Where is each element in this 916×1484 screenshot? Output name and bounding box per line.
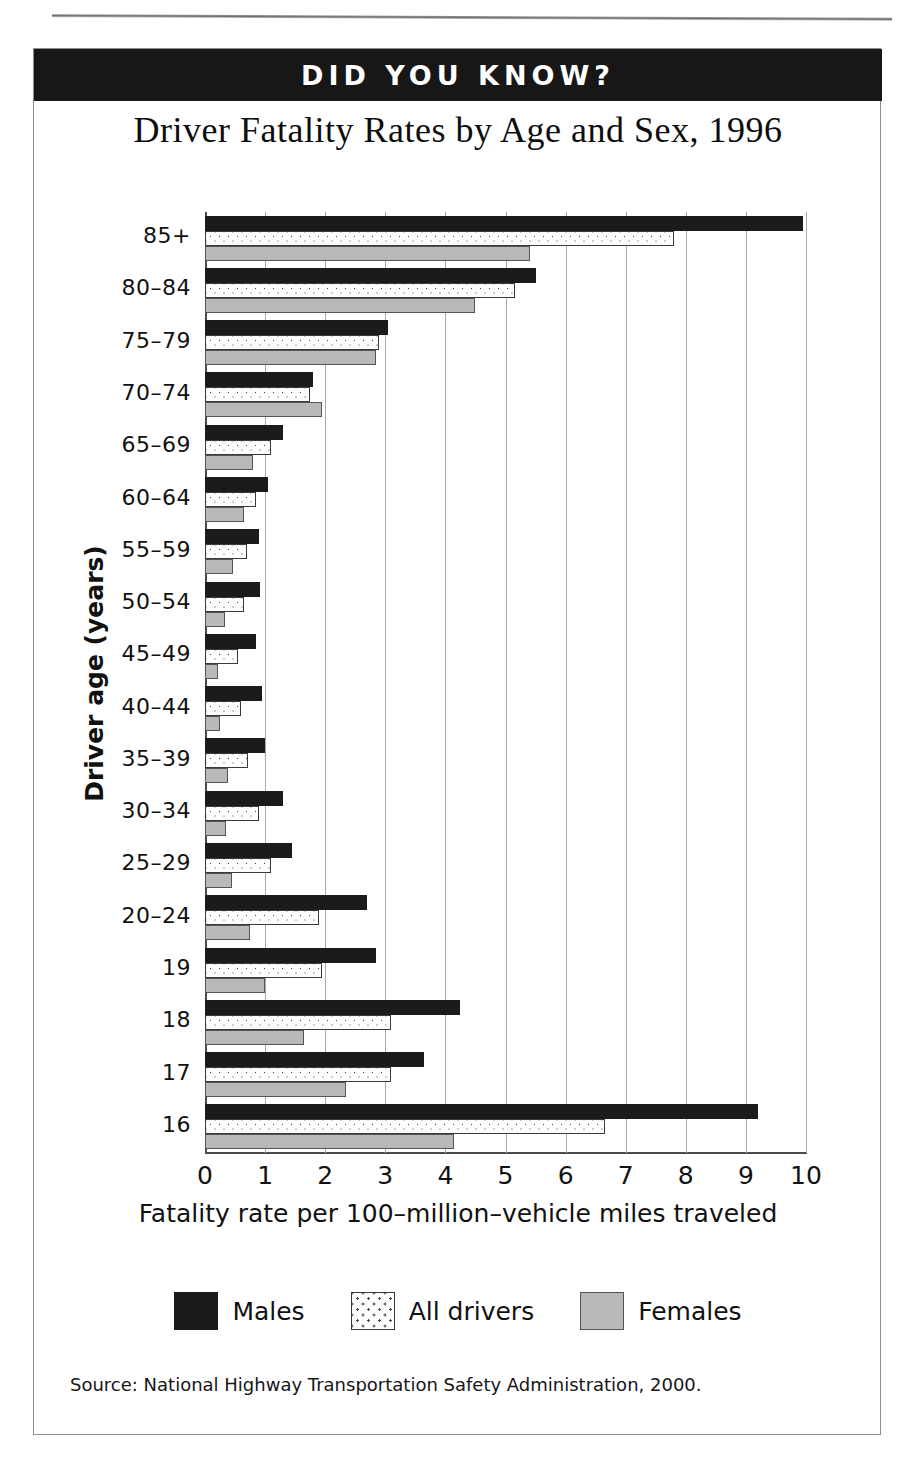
y-tick-label: 80–84 bbox=[41, 275, 191, 300]
x-tick-label: 0 bbox=[197, 1161, 213, 1190]
bar-females bbox=[205, 716, 220, 731]
y-tick-label: 85+ bbox=[41, 223, 191, 248]
y-tick-label: 50–54 bbox=[41, 589, 191, 614]
bar-males bbox=[205, 791, 283, 806]
bar-males bbox=[205, 634, 256, 649]
bar-all-drivers bbox=[205, 231, 674, 246]
legend-label: Females bbox=[638, 1297, 741, 1326]
bar-all-drivers bbox=[205, 858, 271, 873]
bar-females bbox=[205, 768, 228, 783]
bar-males bbox=[205, 477, 268, 492]
legend-item: All drivers bbox=[351, 1292, 535, 1330]
bar-females bbox=[205, 246, 530, 261]
bar-females bbox=[205, 402, 322, 417]
bar-group bbox=[205, 1101, 806, 1153]
y-tick-label: 19 bbox=[41, 955, 191, 980]
bar-group bbox=[205, 473, 806, 525]
bar-males bbox=[205, 843, 292, 858]
bar-all-drivers bbox=[205, 1015, 391, 1030]
bar-group bbox=[205, 369, 806, 421]
bar-females bbox=[205, 873, 232, 888]
y-tick-label: 25–29 bbox=[41, 850, 191, 875]
bar-all-drivers bbox=[205, 1119, 605, 1134]
bar-group bbox=[205, 421, 806, 473]
plot-wrapper: 85+80–8475–7970–7465–6960–6455–5950–5445… bbox=[34, 49, 882, 1436]
bar-group bbox=[205, 1048, 806, 1100]
bar-all-drivers bbox=[205, 701, 241, 716]
solid-gray-swatch bbox=[580, 1292, 624, 1330]
bar-group bbox=[205, 526, 806, 578]
bar-group bbox=[205, 735, 806, 787]
bar-males bbox=[205, 268, 536, 283]
bar-males bbox=[205, 1104, 758, 1119]
bar-all-drivers bbox=[205, 963, 322, 978]
bar-females bbox=[205, 298, 475, 313]
bar-females bbox=[205, 925, 250, 940]
bar-group bbox=[205, 996, 806, 1048]
bar-females bbox=[205, 612, 225, 627]
plot-area bbox=[205, 212, 806, 1153]
source-note: Source: National Highway Transportation … bbox=[70, 1374, 702, 1395]
bar-males bbox=[205, 425, 283, 440]
bar-group bbox=[205, 264, 806, 316]
dotted-white-swatch bbox=[351, 1292, 395, 1330]
bar-group bbox=[205, 317, 806, 369]
running-head bbox=[0, 0, 916, 14]
bar-males bbox=[205, 895, 367, 910]
x-tick-label: 6 bbox=[558, 1161, 574, 1190]
x-axis-tick-labels: 012345678910 bbox=[205, 1161, 806, 1195]
bar-all-drivers bbox=[205, 806, 259, 821]
bar-males bbox=[205, 582, 260, 597]
x-tick-label: 10 bbox=[790, 1161, 822, 1190]
bar-all-drivers bbox=[205, 492, 256, 507]
bar-males bbox=[205, 1000, 460, 1015]
y-tick-label: 20–24 bbox=[41, 903, 191, 928]
bar-group bbox=[205, 683, 806, 735]
legend-label: All drivers bbox=[409, 1297, 535, 1326]
bar-females bbox=[205, 1030, 304, 1045]
bar-females bbox=[205, 559, 233, 574]
x-tick-label: 2 bbox=[317, 1161, 333, 1190]
bar-group bbox=[205, 787, 806, 839]
bar-all-drivers bbox=[205, 597, 244, 612]
bar-males bbox=[205, 372, 313, 387]
x-tick-label: 8 bbox=[678, 1161, 694, 1190]
y-tick-label: 30–34 bbox=[41, 798, 191, 823]
bar-females bbox=[205, 1082, 346, 1097]
bar-males bbox=[205, 738, 265, 753]
y-tick-label: 55–59 bbox=[41, 537, 191, 562]
y-axis-title: Driver age (years) bbox=[80, 324, 109, 1024]
y-tick-label: 17 bbox=[41, 1060, 191, 1085]
bar-all-drivers bbox=[205, 387, 310, 402]
bar-males bbox=[205, 216, 803, 231]
legend-label: Males bbox=[232, 1297, 304, 1326]
chart-legend: MalesAll driversFemales bbox=[34, 1292, 882, 1330]
y-tick-label: 75–79 bbox=[41, 328, 191, 353]
bar-all-drivers bbox=[205, 649, 238, 664]
y-tick-label: 18 bbox=[41, 1007, 191, 1032]
bar-group bbox=[205, 578, 806, 630]
x-tick-label: 3 bbox=[377, 1161, 393, 1190]
bar-all-drivers bbox=[205, 910, 319, 925]
bar-males bbox=[205, 1052, 424, 1067]
y-tick-label: 35–39 bbox=[41, 746, 191, 771]
bar-all-drivers bbox=[205, 753, 248, 768]
y-tick-label: 40–44 bbox=[41, 694, 191, 719]
y-tick-label: 60–64 bbox=[41, 485, 191, 510]
x-tick-label: 5 bbox=[498, 1161, 514, 1190]
y-tick-label: 70–74 bbox=[41, 380, 191, 405]
x-tick-label: 1 bbox=[257, 1161, 273, 1190]
bar-all-drivers bbox=[205, 440, 271, 455]
bar-group bbox=[205, 212, 806, 264]
bar-group bbox=[205, 944, 806, 996]
bar-all-drivers bbox=[205, 335, 379, 350]
solid-black-swatch bbox=[174, 1292, 218, 1330]
bar-females bbox=[205, 350, 376, 365]
bar-all-drivers bbox=[205, 544, 247, 559]
gridline bbox=[806, 212, 807, 1153]
bar-females bbox=[205, 507, 244, 522]
bar-males bbox=[205, 686, 262, 701]
bar-females bbox=[205, 1134, 454, 1149]
bar-all-drivers bbox=[205, 1067, 391, 1082]
bar-males bbox=[205, 948, 376, 963]
